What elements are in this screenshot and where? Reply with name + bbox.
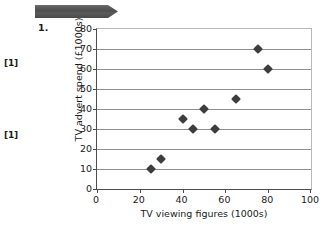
x-tick-label: 80 (261, 194, 273, 205)
x-tick-mark (183, 189, 184, 193)
y-tick-label: 20 (80, 143, 92, 154)
gridline (97, 129, 311, 130)
gridline (97, 89, 311, 90)
y-tick-label: 40 (80, 103, 92, 114)
x-tick-mark (97, 189, 98, 193)
x-tick-mark (225, 189, 226, 193)
data-point (231, 94, 241, 104)
data-point (188, 124, 198, 134)
data-point (178, 114, 188, 124)
y-tick-mark (93, 129, 97, 130)
data-point (156, 154, 166, 164)
y-tick-label: 50 (80, 83, 92, 94)
data-point (263, 64, 273, 74)
x-tick-label: 100 (301, 194, 319, 205)
data-point (146, 164, 156, 174)
data-point (253, 44, 263, 54)
marks-badge: [1] (4, 130, 18, 140)
y-tick-mark (93, 149, 97, 150)
gridline (97, 69, 311, 70)
question-number: 1. (38, 22, 49, 33)
y-tick-label: 0 (86, 183, 92, 194)
gridline (97, 149, 311, 150)
x-tick-label: 60 (218, 194, 230, 205)
y-tick-label: 10 (80, 163, 92, 174)
y-tick-mark (93, 169, 97, 170)
data-point (210, 124, 220, 134)
data-point (199, 104, 209, 114)
scatter-chart: TV advert spend (£1000s) 010203040506070… (54, 24, 316, 214)
y-tick-mark (93, 49, 97, 50)
y-tick-mark (93, 89, 97, 90)
x-axis-title: TV viewing figures (1000s) (96, 208, 312, 219)
y-tick-label: 70 (80, 43, 92, 54)
y-tick-label: 80 (80, 23, 92, 34)
x-tick-label: 0 (93, 194, 99, 205)
y-axis-tick-labels: 01020304050607080 (68, 24, 92, 186)
y-tick-mark (93, 109, 97, 110)
y-tick-label: 60 (80, 63, 92, 74)
y-tick-label: 30 (80, 123, 92, 134)
x-tick-mark (140, 189, 141, 193)
x-tick-mark (310, 189, 311, 193)
y-tick-mark (93, 69, 97, 70)
plot-area (96, 28, 312, 190)
x-tick-label: 20 (133, 194, 145, 205)
x-tick-mark (268, 189, 269, 193)
gridline (97, 169, 311, 170)
marks-badge: [1] (4, 58, 18, 68)
x-axis-tick-labels: 020406080100 (96, 194, 312, 208)
x-tick-label: 40 (176, 194, 188, 205)
y-tick-mark (93, 29, 97, 30)
gridline (97, 49, 311, 50)
